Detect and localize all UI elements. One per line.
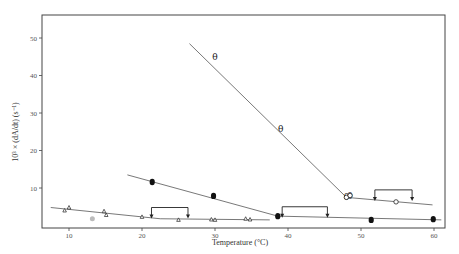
filled-circle-marker-icon [150,179,155,185]
triangle-marker-icon [102,209,106,213]
bracket-annotation [149,208,190,219]
triangle-marker-icon [177,218,181,222]
arrow-down-icon [280,214,284,218]
x-tick-label: 50 [358,232,366,240]
y-tick-label: 40 [30,72,38,80]
triangle-marker-icon [248,218,252,222]
y-tick-label: 10 [30,185,38,193]
y-axis-title: 10³ × (dA/dt) (s⁻¹) [11,102,20,162]
triangle-marker-icon [244,217,248,221]
arrow-down-icon [186,215,190,219]
fit-line [278,216,442,220]
triangle-marker-icon [210,218,214,222]
x-tick-label: 10 [66,232,74,240]
bracket-line [151,208,188,217]
fit-lines [51,44,442,220]
theta-marker-icon: θ [278,124,283,134]
x-tick-label: 40 [285,232,293,240]
fit-line [346,197,432,205]
data-markers: θθθθ [63,52,436,223]
axis-ticks: 1020304050601020304050 [30,35,438,241]
filled-circle-marker-icon [369,217,374,223]
open-circle-marker-icon [348,193,352,197]
x-axis-title: Temperature (°C) [212,238,269,247]
y-tick-label: 50 [30,35,38,43]
bracket-annotation [373,190,414,201]
filled-circle-marker-icon [211,193,216,199]
theta-marker-icon: θ [212,52,217,62]
open-circle-marker-icon [394,200,398,204]
bracket-line [375,190,412,199]
plot-border [42,15,445,228]
grey-dot-marker-icon [90,216,95,221]
fit-line [51,208,270,220]
triangle-marker-icon [140,215,144,219]
chart: 1020304050601020304050 θθθθ Temperature … [0,0,459,254]
x-tick-label: 20 [139,232,147,240]
plot-frame [42,15,445,228]
y-tick-label: 30 [30,110,38,118]
bracket-annotations [149,190,414,219]
y-tick-label: 20 [30,147,38,155]
bracket-line [282,207,327,216]
triangle-marker-icon [67,206,71,210]
fit-line [189,44,346,198]
filled-circle-marker-icon [275,213,280,219]
arrow-down-icon [410,197,414,201]
triangle-marker-icon [213,218,217,222]
x-tick-label: 60 [431,232,439,240]
filled-circle-marker-icon [431,216,436,222]
